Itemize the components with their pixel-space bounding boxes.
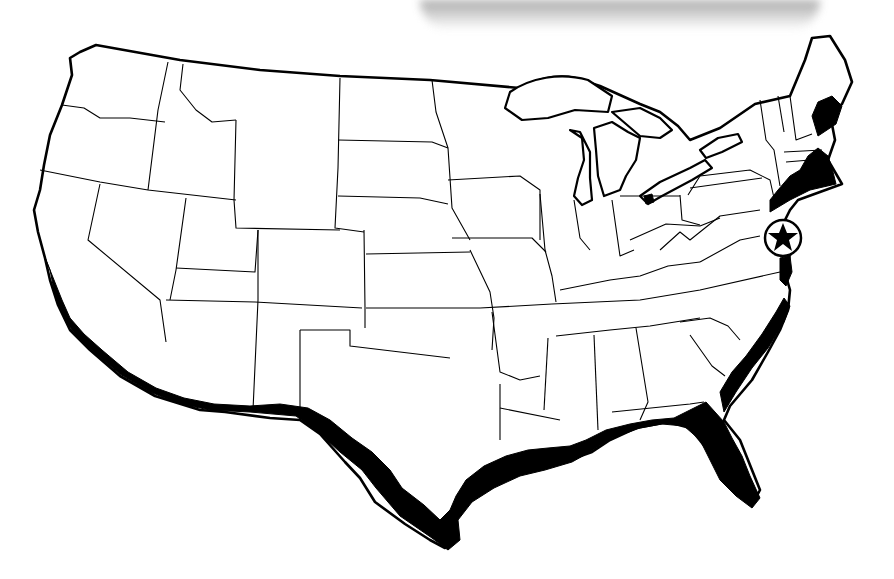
map-canvas [0, 0, 894, 579]
us-map [0, 0, 894, 579]
capital-marker [765, 220, 801, 256]
band-lake-erie-dot [644, 194, 654, 204]
band-carolina-coast [780, 256, 792, 286]
